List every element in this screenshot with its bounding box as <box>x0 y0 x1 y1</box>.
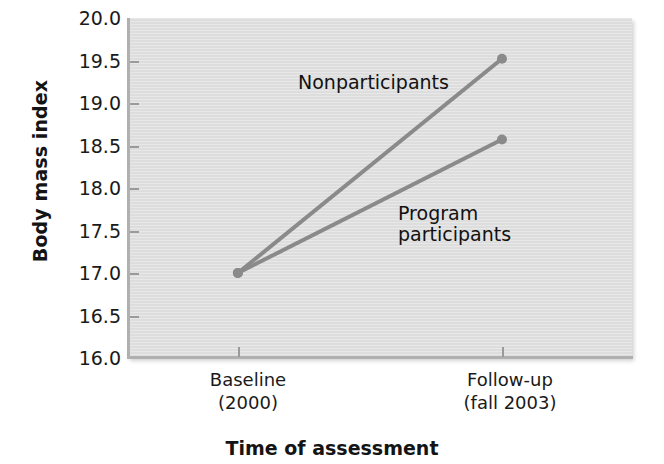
series-label-program-participants-line2: participants <box>398 224 511 245</box>
x-tick-label-baseline: Baseline (2000) <box>148 368 348 414</box>
data-point-marker <box>497 135 507 145</box>
data-point-marker <box>497 54 507 64</box>
x-tick-label-followup-line1: Follow-up <box>410 368 610 391</box>
x-axis-title: Time of assessment <box>0 437 664 459</box>
data-point-marker <box>233 268 243 278</box>
x-tick-label-baseline-line2: (2000) <box>148 391 348 414</box>
bmi-line-chart: Body mass index 20.019.519.018.518.017.5… <box>0 0 664 464</box>
series-label-program-participants-line1: Program <box>398 203 511 224</box>
x-tick-label-followup: Follow-up (fall 2003) <box>410 368 610 414</box>
series-label-program-participants: Program participants <box>398 203 511 246</box>
x-tick-label-baseline-line1: Baseline <box>148 368 348 391</box>
x-tick-label-followup-line2: (fall 2003) <box>410 391 610 414</box>
series-label-nonparticipants: Nonparticipants <box>298 72 449 93</box>
